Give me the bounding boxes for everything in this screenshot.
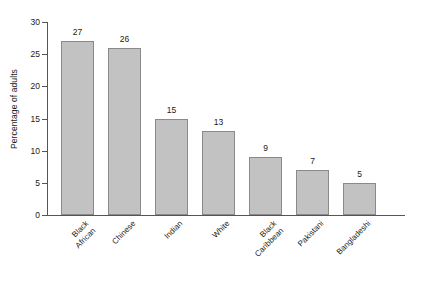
x-axis-line [47,215,405,216]
y-axis-tick [42,54,47,55]
y-axis-tick-label: 0 [0,211,40,220]
y-axis-tick [42,86,47,87]
bar-value-label: 27 [61,28,94,37]
bar-value-label: 26 [108,35,141,44]
bar-value-label: 5 [343,170,376,179]
bar-chart: Percentage of adults 051015202530 272615… [0,0,429,283]
bar [155,119,188,216]
bar [249,157,282,215]
y-axis-tick [42,22,47,23]
y-axis-tick-label: 25 [0,50,40,59]
bar [108,48,141,215]
y-axis-line [47,22,48,216]
bar [296,170,329,215]
y-axis-tick [42,215,47,216]
y-axis-tick [42,119,47,120]
y-axis-tick-label: 5 [0,179,40,188]
y-axis-tick-label: 20 [0,82,40,91]
y-axis-tick-label: 30 [0,18,40,27]
y-axis-tick [42,151,47,152]
y-axis-tick-label: 15 [0,115,40,124]
bar [61,41,94,215]
bar [343,183,376,215]
bar-value-label: 15 [155,106,188,115]
bar [202,131,235,215]
bar-value-label: 7 [296,157,329,166]
bar-value-label: 13 [202,118,235,127]
y-axis-tick [42,183,47,184]
bar-value-label: 9 [249,144,282,153]
y-axis-tick-label: 10 [0,147,40,156]
